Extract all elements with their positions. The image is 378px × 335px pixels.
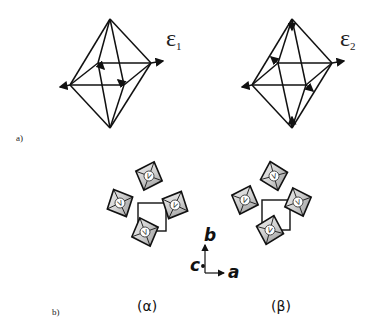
cluster-alpha [101, 157, 194, 251]
octahedron-epsilon1 [60, 19, 163, 128]
phase-label-alpha: (α) [137, 298, 157, 314]
mode-label-epsilon2: ε2 [340, 26, 356, 52]
axis-label-a: a [228, 262, 239, 282]
phase-label-beta: (β) [271, 298, 291, 314]
octahedron-epsilon2 [242, 19, 344, 128]
axis-label-b: b [204, 225, 216, 245]
crystal-axes [202, 245, 224, 273]
panel-label-b: b) [52, 307, 60, 317]
cluster-beta [227, 158, 317, 248]
figure: V [0, 0, 378, 335]
panel-label-a: a) [16, 133, 23, 143]
axis-label-c: c [190, 255, 200, 275]
mode-label-epsilon1: ε1 [166, 26, 182, 52]
